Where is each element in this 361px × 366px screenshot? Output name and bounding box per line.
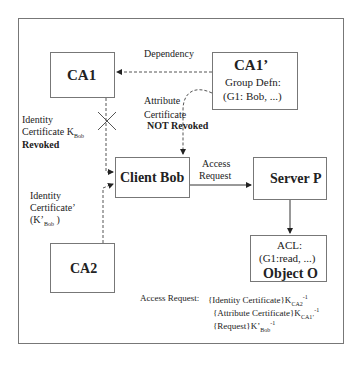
id-cert2-sub: Bob [44, 221, 54, 227]
client-bob-title: Client Bob [120, 171, 184, 185]
group-defn-label: Group Defn: [225, 77, 281, 88]
id-cert2-label-1: Identity [30, 191, 61, 201]
formula-line-1-sup: -1 [303, 294, 308, 300]
id-cert2-label-2: Certificate’ [30, 203, 76, 213]
access-label-1: Access [202, 159, 230, 169]
formula-line-2-sup: -1 [314, 307, 319, 313]
ca1-prime-title: CA1’ [234, 58, 268, 73]
formula-line-3-sub: Bob [260, 327, 270, 333]
ca1-prime-node: CA1’ Group Defn: (G1: Bob, ...) [212, 52, 298, 110]
object-o-title: Object O [263, 267, 318, 281]
formula-line-2: {Attribute Certificate}KCA1’-1 [213, 307, 319, 320]
ca1-title: CA1 [67, 68, 96, 83]
id-cert-sub: Bob [74, 133, 84, 139]
acl-label: ACL: [277, 240, 302, 251]
ca1-node: CA1 [50, 52, 115, 98]
attr-cert-label-3: NOT Revoked [147, 121, 208, 131]
acl-value: (G1:read, ...) [259, 253, 316, 264]
formula-line-1-sub: CA2 [291, 301, 302, 307]
id-cert-label-1: Identity [22, 115, 53, 125]
ca2-node: CA2 [50, 243, 115, 293]
id-cert2-label-3: (K’Bob ) [30, 215, 60, 227]
server-p-node: Server P [253, 157, 327, 200]
formula-line-3-text: {Request}K’ [213, 321, 260, 331]
formula-line-3: {Request}K’Bob-1 [213, 320, 275, 333]
formula-line-1: {Identity Certificate}KCA2-1 [208, 294, 308, 307]
formula-line-2-text: {Attribute Certificate}K [213, 308, 301, 318]
ca2-title: CA2 [70, 262, 97, 276]
formula-line-1-text: {Identity Certificate}K [208, 295, 291, 305]
attr-cert-label-1: Attribute [144, 96, 180, 106]
id-cert-text: Certificate K [22, 126, 74, 137]
formula-prefix: Access Request: [140, 294, 199, 303]
server-p-title: Server P [270, 172, 321, 186]
object-o-node: ACL: (G1:read, ...) Object O [250, 235, 327, 282]
id-cert-label-3: Revoked [22, 140, 59, 150]
id-cert2-text: (K’ [30, 214, 44, 225]
formula-line-2-sub: CA1’ [301, 314, 314, 320]
attr-cert-label-2: Certificate [144, 110, 186, 120]
dependency-label: Dependency [144, 49, 194, 59]
group-defn-value: (G1: Bob, ...) [223, 91, 282, 102]
access-label-2: Request [199, 171, 231, 181]
formula-line-3-sup: -1 [270, 320, 275, 326]
id-cert2-close: ) [56, 214, 59, 225]
client-bob-node: Client Bob [115, 157, 190, 198]
id-cert-label-2: Certificate KBob [22, 127, 84, 139]
